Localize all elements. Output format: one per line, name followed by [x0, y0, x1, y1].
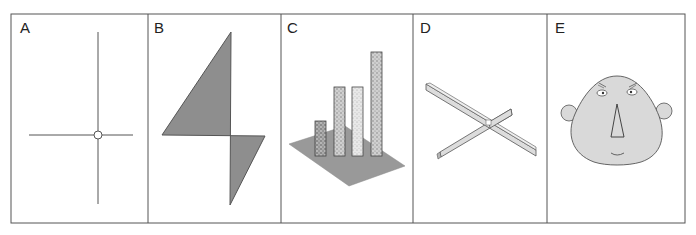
panel-label-d: D: [420, 19, 431, 36]
crossed-slabs-icon: [426, 83, 536, 159]
bar-3: [352, 87, 363, 156]
crosshair-icon: [29, 32, 133, 204]
bar-4: [371, 52, 382, 156]
bar-2: [334, 87, 345, 156]
bar-1: [315, 121, 326, 156]
panel-c: C: [287, 19, 405, 186]
head: [571, 76, 662, 165]
panel-label-e: E: [555, 19, 565, 36]
panel-label-c: C: [287, 19, 298, 36]
kite-shape: [162, 32, 265, 205]
figure: A B C D: [0, 0, 696, 235]
base-plane: [289, 126, 405, 186]
face-icon: [561, 76, 672, 165]
panel-label-a: A: [20, 19, 30, 36]
panel-e: E: [555, 19, 672, 165]
panel-d: D: [420, 19, 536, 159]
bar-chart-3d-icon: [289, 52, 405, 186]
panel-b: B: [154, 19, 265, 205]
panel-a: A: [20, 19, 133, 204]
panel-label-b: B: [154, 19, 164, 36]
